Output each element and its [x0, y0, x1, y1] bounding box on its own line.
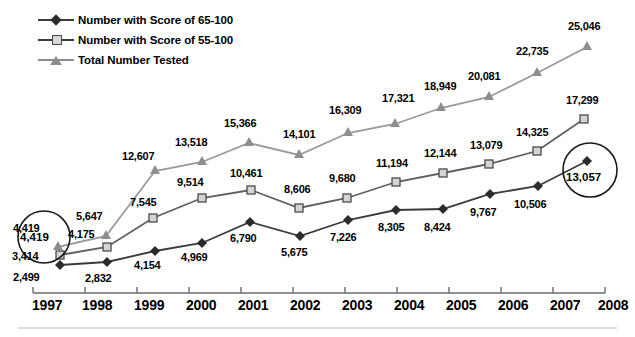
series-line-score-55-100: [60, 119, 584, 255]
markers-score-55-100: [56, 115, 588, 259]
triangle-marker-icon: [38, 52, 74, 68]
data-label-total-2002: 14,101: [283, 128, 315, 140]
legend-item-total-tested[interactable]: Total Number Tested: [38, 50, 233, 70]
data-label-65-2004: 8,305: [378, 221, 405, 233]
data-label-65-2006: 9,767: [470, 206, 497, 218]
data-label-65-1999: 4,154: [134, 259, 161, 271]
x-tick-label-1999: 1999: [134, 297, 164, 313]
data-label-total-2000: 13,518: [175, 136, 207, 148]
data-label-55-2001: 10,461: [230, 167, 262, 179]
line-chart: Number with Score of 65-100 Number with …: [0, 0, 635, 337]
x-tick-label-1998: 1998: [82, 297, 112, 313]
data-label-total-2008: 25,046: [568, 20, 600, 32]
data-label-65-2005: 8,424: [424, 221, 451, 233]
data-label-55-2004: 11,194: [376, 157, 408, 169]
x-axis: [33, 287, 605, 293]
legend-item-score-55-100[interactable]: Number with Score of 55-100: [38, 30, 233, 50]
data-label-65-2008: 13,057: [566, 171, 601, 183]
series-line-score-65-100: [60, 161, 587, 265]
x-tick-label-2002: 2002: [290, 297, 320, 313]
data-label-total-2004: 17,321: [382, 92, 414, 104]
data-label-65-1997: 2,499: [13, 271, 40, 283]
diamond-marker-icon: [38, 12, 74, 28]
data-label-total-2001: 15,366: [224, 117, 256, 129]
data-label-55-1997: 3,414: [12, 250, 39, 262]
data-label-65-1998: 2,832: [85, 272, 112, 284]
x-tick-label-1997: 1997: [32, 297, 62, 313]
data-label-65-2001: 6,790: [230, 232, 257, 244]
data-label-55-1999: 7,545: [130, 196, 157, 208]
markers-score-65-100: [55, 156, 592, 270]
data-label-total-1999: 12,607: [122, 150, 154, 162]
data-label-55-2005: 12,144: [424, 147, 456, 159]
annotation-label-1997: 4,419: [20, 231, 49, 243]
legend-label-total-tested: Total Number Tested: [74, 54, 189, 66]
markers-total-tested: [53, 41, 592, 250]
data-label-total-2006: 20,081: [468, 70, 500, 82]
x-tick-label-2008: 2008: [598, 297, 628, 313]
x-tick-label-2006: 2006: [498, 297, 528, 313]
data-label-65-2007: 10,506: [514, 198, 546, 210]
x-tick-label-2004: 2004: [394, 297, 424, 313]
x-tick-label-2000: 2000: [186, 297, 216, 313]
data-label-total-1998: 5,647: [76, 210, 103, 222]
data-label-65-2003: 7,226: [330, 231, 357, 243]
data-label-65-2000: 4,969: [181, 251, 208, 263]
x-tick-label-2001: 2001: [238, 297, 268, 313]
data-label-55-2008: 17,299: [566, 94, 598, 106]
data-label-55-2000: 9,514: [177, 176, 204, 188]
data-label-55-2006: 13,079: [470, 139, 502, 151]
x-tick-label-2007: 2007: [550, 297, 580, 313]
data-label-65-2002: 5,675: [281, 246, 308, 258]
legend-item-score-65-100[interactable]: Number with Score of 65-100: [38, 10, 233, 30]
legend-label-score-65-100: Number with Score of 65-100: [74, 14, 233, 26]
square-marker-icon: [38, 32, 74, 48]
series-line-total-tested: [58, 47, 587, 247]
legend-label-score-55-100: Number with Score of 55-100: [74, 34, 233, 46]
data-label-55-1998: 4,175: [68, 228, 95, 240]
data-label-total-2003: 16,309: [329, 104, 361, 116]
data-label-total-2005: 18,949: [424, 80, 456, 92]
data-label-total-2007: 22,735: [516, 45, 548, 57]
chart-legend: Number with Score of 65-100 Number with …: [38, 10, 233, 70]
x-tick-label-2005: 2005: [446, 297, 476, 313]
data-label-55-2002: 8,606: [284, 183, 311, 195]
data-label-55-2007: 14,325: [516, 126, 548, 138]
data-label-55-2003: 9,680: [329, 172, 356, 184]
x-tick-label-2003: 2003: [342, 297, 372, 313]
